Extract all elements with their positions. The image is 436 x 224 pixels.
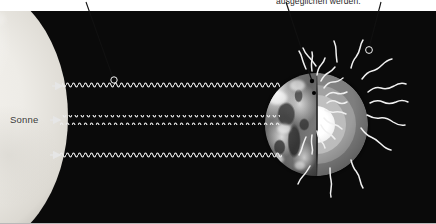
leader-outgoing-radiation bbox=[366, 2, 381, 53]
leader-earth-surface bbox=[286, 2, 314, 83]
wave-ray-icon bbox=[60, 81, 282, 160]
figure-page: ausgeglichen werden. Sonne bbox=[0, 0, 436, 224]
annotation-overlay bbox=[0, 0, 436, 224]
figure-bottom-rule bbox=[0, 223, 436, 224]
leader-incoming-radiation bbox=[86, 2, 117, 83]
radiating-wave-icon bbox=[298, 40, 408, 197]
